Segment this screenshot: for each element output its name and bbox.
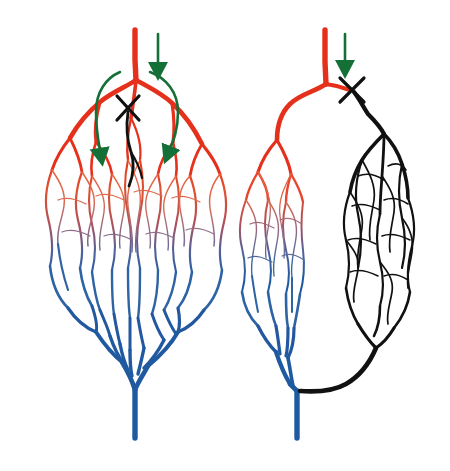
right-artery-main-trunk <box>325 30 326 84</box>
vascular-illustration <box>0 0 450 471</box>
vascular-diagram-figure: Arterial occlusion with and without coll… <box>0 0 450 471</box>
left-vein-m9 <box>178 308 180 332</box>
left-artery-main-trunk <box>135 30 136 80</box>
left-vein-major-c2 <box>130 350 132 376</box>
